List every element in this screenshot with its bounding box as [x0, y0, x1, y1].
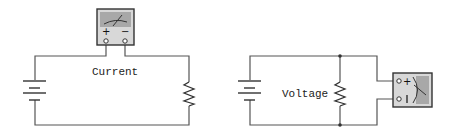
- voltage-label: Voltage: [282, 88, 328, 100]
- svg-text:−: −: [121, 26, 129, 37]
- voltmeter-icon: +: [393, 73, 432, 107]
- junction-dot-bottom: [338, 123, 342, 127]
- wire-bottom: [250, 99, 396, 125]
- svg-text:+: +: [403, 76, 411, 87]
- current-label: Current: [92, 66, 138, 78]
- junction-dot-top: [338, 54, 342, 58]
- ammeter-icon: + −: [97, 9, 134, 45]
- battery-icon: [23, 81, 46, 100]
- svg-text:+: +: [102, 26, 110, 37]
- wire-top: [250, 56, 396, 81]
- battery-icon: [238, 81, 261, 100]
- resistor-icon: [184, 82, 194, 106]
- current-circuit: [23, 43, 194, 125]
- wire-bottom: [35, 100, 189, 125]
- resistor-icon: [335, 82, 345, 106]
- circuit-diagrams: + − Current + Voltage: [0, 0, 451, 131]
